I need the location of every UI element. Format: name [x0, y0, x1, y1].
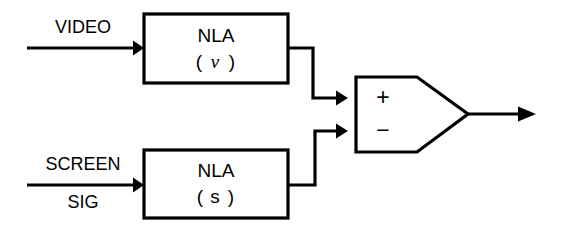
nla-video-to-amp-wire [288, 48, 345, 98]
video-input-group: VIDEO [27, 17, 144, 56]
nla-screen-subscript: ( s ) [197, 186, 234, 207]
nla-screen-title: NLA [198, 160, 235, 181]
difference-amplifier: + − [356, 77, 468, 152]
nla-video-paren-close: ) [229, 51, 235, 72]
block-diagram-svg: VIDEO NLA ( ν ) SCREEN SIG [0, 0, 562, 244]
screen-sig-input-label-line2: SIG [67, 192, 98, 212]
amplifier-output-group [468, 107, 536, 122]
nla-video-to-amp-wire-group [288, 48, 348, 106]
nla-screen-paren-close: ) [228, 186, 234, 207]
nla-screen-paren-open: ( [197, 186, 204, 207]
amplifier-plus-sign: + [376, 84, 389, 110]
amp-minus-input-arrowhead [336, 124, 348, 139]
screen-sig-input-label-line1: SCREEN [45, 154, 120, 174]
screen-sig-input-arrowhead [133, 178, 144, 193]
nla-video-title: NLA [198, 25, 235, 46]
nla-video-subscript: ( ν ) [196, 51, 235, 72]
amplifier-minus-sign: − [376, 117, 389, 143]
nla-screen-to-amp-wire [288, 131, 345, 185]
nla-video-paren-open: ( [196, 51, 203, 72]
nla-screen-to-amp-wire-group [288, 124, 348, 186]
nla-screen-block: NLA ( s ) [144, 150, 288, 218]
amplifier-output-arrowhead [518, 107, 536, 122]
block-diagram-canvas: VIDEO NLA ( ν ) SCREEN SIG [0, 0, 562, 244]
difference-amplifier-body [356, 77, 468, 152]
nla-video-symbol-nu: ν [211, 51, 220, 72]
amp-plus-input-arrowhead [336, 91, 348, 106]
video-input-label: VIDEO [55, 17, 111, 37]
video-input-arrowhead [133, 41, 144, 56]
nla-video-block: NLA ( ν ) [144, 14, 288, 83]
screen-sig-input-group: SCREEN SIG [27, 154, 144, 212]
nla-screen-symbol-s: s [210, 186, 220, 207]
